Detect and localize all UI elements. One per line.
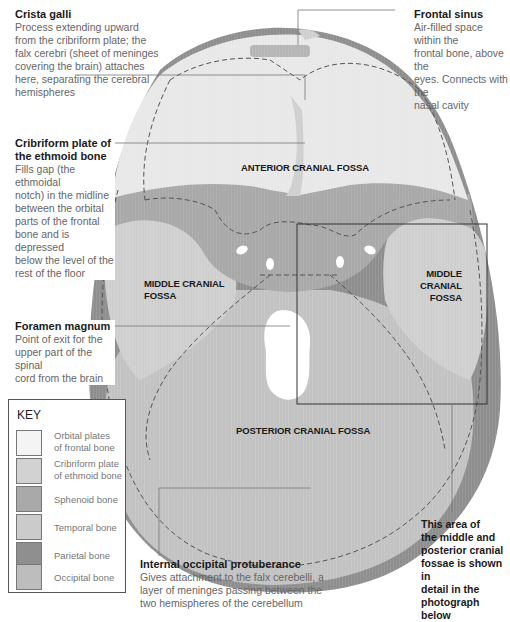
frontal-sinus-line: frontal bone, above the bbox=[414, 47, 510, 73]
detail-area-line: fossae is shown in bbox=[421, 557, 509, 583]
middle-left-line: FOSSA bbox=[144, 290, 224, 302]
crista-galli-line: Process extending upward bbox=[15, 21, 165, 34]
cribriform-line: parts of the frontal bbox=[15, 215, 115, 228]
key-swatch bbox=[16, 514, 42, 540]
cribriform-line: bone and is depressed bbox=[15, 228, 115, 254]
label-middle-cranial-fossa-right: MIDDLE CRANIAL FOSSA bbox=[384, 268, 462, 304]
key-item-occipital-bone: Occipital bone bbox=[16, 564, 124, 592]
key-swatch bbox=[16, 564, 42, 590]
key-label: Orbital plates of frontal bone bbox=[54, 430, 115, 454]
foramen-magnum-line: cord from the brain bbox=[15, 372, 115, 385]
key-swatch bbox=[16, 486, 42, 512]
key-label: Cribriform plate of ethmoid bone bbox=[54, 458, 122, 482]
detail-area-line: the middle and bbox=[421, 531, 509, 544]
frontal-sinus-line: nasal cavity bbox=[414, 99, 510, 112]
key-item-cribriform-plate: Cribriform plate of ethmoid bone bbox=[16, 458, 124, 486]
frontal-sinus-line: eyes. Connects with the bbox=[414, 73, 510, 99]
middle-left-line: MIDDLE CRANIAL bbox=[144, 278, 224, 290]
occipital-protuberance-line: two hemispheres of the cerebellum bbox=[140, 597, 360, 610]
occipital-protuberance-title: Internal occipital protuberance bbox=[140, 558, 360, 571]
key-label: Temporal bone bbox=[54, 522, 117, 534]
detail-area-line: posterior cranial bbox=[421, 544, 509, 557]
cribriform-title: the ethmoid bone bbox=[15, 150, 115, 163]
frontal-sinus-title: Frontal sinus bbox=[414, 8, 510, 21]
label-posterior-cranial-fossa: POSTERIOR CRANIAL FOSSA bbox=[236, 425, 370, 437]
key-label: Sphenoid bone bbox=[54, 494, 118, 506]
callout-detail-area: This area of the middle and posterior cr… bbox=[421, 518, 509, 622]
crista-galli-line: from the cribriform plate; the bbox=[15, 34, 165, 47]
cribriform-line: between the orbital bbox=[15, 202, 115, 215]
callout-crista-galli: Crista galli Process extending upward fr… bbox=[15, 8, 165, 99]
key-item-orbital-plates: Orbital plates of frontal bone bbox=[16, 430, 124, 458]
cribriform-line: Fills gap (the ethmoidal bbox=[15, 163, 115, 189]
key-label: Parietal bone bbox=[54, 550, 110, 562]
key-item-temporal-bone: Temporal bone bbox=[16, 514, 124, 542]
key-label: Occipital bone bbox=[54, 572, 114, 584]
key-title: KEY bbox=[17, 408, 41, 422]
cribriform-line: below the level of the bbox=[15, 254, 115, 267]
key-swatch bbox=[16, 458, 42, 484]
detail-area-line: This area of bbox=[421, 518, 509, 531]
label-anterior-cranial-fossa: ANTERIOR CRANIAL FOSSA bbox=[241, 162, 369, 174]
callout-internal-occipital-protuberance: Internal occipital protuberance Gives at… bbox=[140, 558, 360, 610]
occipital-protuberance-line: Gives attachment to the falx cerebelli, … bbox=[140, 571, 360, 584]
crista-galli-line: hemispheres bbox=[15, 86, 77, 99]
cribriform-line: notch) in the midline bbox=[15, 189, 115, 202]
callout-frontal-sinus: Frontal sinus Air-filled space within th… bbox=[414, 8, 510, 112]
crista-galli-line: falx cerebri (sheet of meninges bbox=[15, 47, 165, 60]
key-item-sphenoid-bone: Sphenoid bone bbox=[16, 486, 124, 514]
middle-right-line: FOSSA bbox=[384, 292, 462, 304]
label-middle-cranial-fossa-left: MIDDLE CRANIAL FOSSA bbox=[144, 278, 224, 302]
cribriform-title: Cribriform plate of bbox=[15, 137, 115, 150]
occipital-protuberance-line: layer of meninges passing between the bbox=[140, 584, 360, 597]
middle-right-line: MIDDLE CRANIAL bbox=[384, 268, 462, 292]
foramen-magnum-title: Foramen magnum bbox=[15, 320, 115, 333]
foramen-magnum-line: upper part of the spinal bbox=[15, 346, 115, 372]
callout-foramen-magnum: Foramen magnum Point of exit for the upp… bbox=[15, 320, 115, 385]
callout-cribriform-plate: Cribriform plate of the ethmoid bone Fil… bbox=[15, 137, 115, 280]
detail-area-line: detail in the bbox=[421, 583, 509, 596]
frontal-sinus-line: Air-filled space within the bbox=[414, 21, 510, 47]
key-swatch bbox=[16, 430, 42, 456]
cribriform-line: rest of the floor bbox=[15, 267, 115, 280]
foramen-magnum-hole bbox=[264, 310, 310, 400]
legend-key: KEY Orbital plates of frontal bone Cribr… bbox=[8, 399, 126, 593]
crista-galli-line: covering the brain) attaches bbox=[15, 60, 165, 73]
detail-area-line: photograph below bbox=[421, 596, 509, 622]
foramen-magnum-line: Point of exit for the bbox=[15, 333, 115, 346]
crista-galli-line: here, separating the cerebral bbox=[15, 73, 165, 86]
crista-galli-title: Crista galli bbox=[15, 8, 165, 21]
